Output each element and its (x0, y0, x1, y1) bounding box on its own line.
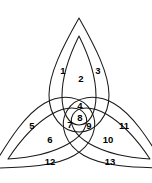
region-label-1: 1 (60, 66, 65, 76)
region-label-11: 11 (119, 121, 129, 131)
region-label-3: 3 (95, 66, 100, 76)
triquetra-figure: 1 2 3 4 5 6 7 8 9 10 11 12 13 (0, 0, 152, 183)
petal-lower-left-outer-contour (0, 85, 106, 183)
region-label-5: 5 (29, 121, 34, 131)
region-label-4: 4 (77, 101, 82, 111)
region-label-6: 6 (47, 135, 52, 145)
region-label-12: 12 (45, 157, 56, 167)
region-label-7: 7 (67, 120, 72, 130)
petal-group-lower-left (0, 85, 106, 183)
region-label-10: 10 (103, 135, 114, 145)
region-label-13: 13 (105, 157, 116, 167)
triquetra-diagram-svg (0, 0, 152, 183)
region-label-9: 9 (86, 121, 91, 131)
region-label-8: 8 (77, 113, 82, 123)
region-label-2: 2 (78, 74, 83, 84)
